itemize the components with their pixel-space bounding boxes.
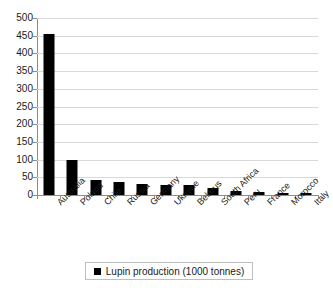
x-label-morocco: Morocco (289, 200, 296, 207)
bar-slot (154, 18, 177, 195)
x-label-poland: Poland (78, 200, 85, 207)
bar-chart: 050100150200250300350400450500 Australia… (0, 0, 333, 293)
x-tick-mark (37, 195, 38, 199)
x-label-russia: Russia (125, 200, 132, 207)
bar-slot (201, 18, 224, 195)
x-label-south-africa: South Africa (219, 200, 226, 207)
bar-slot (131, 18, 154, 195)
bar-slot (295, 18, 318, 195)
x-label-germany: Germany (148, 200, 155, 207)
bar-slot (178, 18, 201, 195)
y-axis-tick-marks (0, 18, 37, 195)
bar-slot (271, 18, 294, 195)
x-label-belarus: Belarus (195, 200, 202, 207)
plot-area (37, 18, 318, 195)
bar-slot (84, 18, 107, 195)
x-label-france: France (265, 200, 272, 207)
chart-legend: Lupin production (1000 tonnes) (85, 262, 253, 280)
bar-slot (37, 18, 60, 195)
x-label-peru: Peru (242, 200, 249, 207)
bar-slot (60, 18, 83, 195)
legend-swatch-icon (94, 268, 101, 275)
x-label-australia: Australia (55, 200, 62, 207)
legend-label: Lupin production (1000 tonnes) (106, 266, 244, 277)
bar-slot (107, 18, 130, 195)
x-label-italy: Italy (312, 200, 319, 207)
x-label-chile: Chile (102, 200, 109, 207)
x-label-ukraine: Ukraine (172, 200, 179, 207)
bar-slot (224, 18, 247, 195)
x-axis-category-labels: AustraliaPolandChileRussiaGermanyUkraine… (37, 200, 318, 250)
bar-australia[interactable] (43, 34, 54, 195)
